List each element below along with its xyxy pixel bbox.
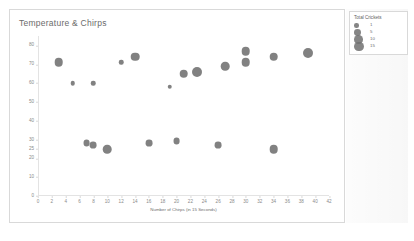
x-tick-label: 30 [243,196,248,205]
y-tick-label: 20 [29,156,38,161]
x-tick-label: 38 [299,196,304,205]
x-tick-label: 6 [78,196,81,205]
data-point[interactable] [90,142,97,149]
data-point[interactable] [54,58,63,67]
x-tick-label: 32 [257,196,262,205]
data-point[interactable] [167,85,172,90]
legend-entry-label: 15 [370,44,375,48]
legend-bubble-swatch [354,23,370,28]
x-tick-label: 20 [174,196,179,205]
chart-screenshot: Temperature & Chirps 0102025304050607080… [0,0,414,241]
y-tick-label: 50 [29,100,38,105]
legend[interactable]: Total Crickets 151015 [349,11,408,55]
legend-entry[interactable]: 1 [354,22,403,29]
x-tick-label: 14 [132,196,137,205]
legend-dot-icon [354,42,364,52]
x-tick-label: 22 [188,196,193,205]
y-tick-label: 80 [29,43,38,48]
x-tick-label: 42 [326,196,331,205]
x-tick-label: 4 [64,196,67,205]
x-tick-label: 36 [285,196,290,205]
x-tick-label: 16 [146,196,151,205]
y-tick-label: 25 [29,147,38,152]
data-point[interactable] [303,48,313,58]
x-tick-label: 24 [202,196,207,205]
x-tick-label: 10 [105,196,110,205]
y-axis-line [38,36,39,196]
plot-area[interactable]: 0102025304050607080 02468101214161820222… [38,36,329,196]
data-point[interactable] [269,145,278,154]
legend-entries[interactable]: 151015 [354,22,403,50]
x-tick-label: 40 [313,196,318,205]
y-tick-label: 10 [29,175,38,180]
x-tick-label: 2 [51,196,54,205]
y-tick-label: 30 [29,137,38,142]
data-point[interactable] [215,142,222,149]
x-tick-label: 26 [216,196,221,205]
x-tick-label: 8 [92,196,95,205]
data-point[interactable] [242,47,251,56]
chart-panel: Temperature & Chirps 0102025304050607080… [9,9,345,223]
data-point[interactable] [192,67,202,77]
data-point[interactable] [131,52,140,61]
x-tick-label: 34 [271,196,276,205]
y-tick-label: 40 [29,118,38,123]
legend-entry-label: 1 [370,23,372,27]
legend-dot-icon [354,23,359,28]
legend-entry-label: 10 [370,37,375,41]
data-point[interactable] [269,52,278,61]
data-point[interactable] [83,140,90,147]
data-point[interactable] [145,140,152,147]
y-tick-label: 70 [29,62,38,67]
y-tick-label: 60 [29,81,38,86]
legend-entry-label: 5 [370,30,372,34]
x-tick-label: 12 [119,196,124,205]
legend-bubble-swatch [354,42,370,52]
data-point[interactable] [242,58,251,67]
plot-frame [38,36,329,196]
legend-entry[interactable]: 15 [354,43,403,50]
x-axis-title: Number of Chirps (in 15 Seconds) [150,207,216,212]
x-tick-label: 28 [229,196,234,205]
data-point[interactable] [173,138,180,145]
data-point[interactable] [70,81,75,86]
x-tick-label: 18 [160,196,165,205]
legend-title: Total Crickets [354,15,403,20]
data-point[interactable] [221,62,230,71]
data-point[interactable] [91,81,96,86]
chart-title: Temperature & Chirps [19,18,107,28]
data-point[interactable] [103,145,112,154]
data-point[interactable] [179,69,188,78]
data-point[interactable] [119,60,124,65]
x-tick-label: 0 [37,196,40,205]
